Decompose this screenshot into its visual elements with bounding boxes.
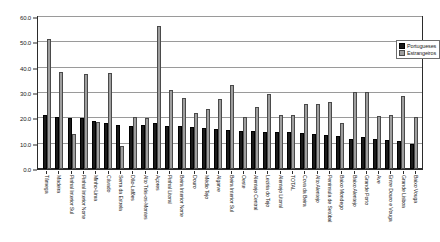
x-axis-label: Entre Douro e Vouga — [388, 175, 393, 222]
x-tick-mark — [378, 171, 379, 174]
bar-group — [298, 17, 310, 169]
chart-legend: PortuguesesEstrangeiros — [396, 40, 440, 59]
x-tick-mark — [280, 171, 281, 174]
legend-item: Portugueses — [399, 43, 436, 49]
x-tick-mark — [231, 171, 232, 174]
x-tick-mark — [218, 171, 219, 174]
bar-group — [65, 17, 77, 169]
x-axis-label: Baixo Mondego — [339, 175, 344, 210]
x-axis-label: Alto Trás-os-Montes — [142, 175, 147, 220]
x-tick-mark — [292, 171, 293, 174]
x-axis-label: Dão-Lafões — [130, 175, 135, 201]
bar-group — [53, 17, 65, 169]
x-axis-label: Beira Interior Norte — [179, 175, 184, 217]
x-axis-label-slot: Grande Lisboa — [397, 171, 409, 242]
y-tick-label: 0.0 — [23, 167, 31, 173]
x-axis-label: Baixo Vouga — [412, 175, 417, 203]
x-tick-mark — [255, 171, 256, 174]
bar-group — [175, 17, 187, 169]
x-axis-label: Oeste — [240, 175, 245, 188]
x-axis-label-slot: Oeste — [237, 171, 249, 242]
x-axis-label-slot: Alentejo Litoral — [274, 171, 286, 242]
x-axis-label: Açores — [154, 175, 159, 191]
x-tick-mark — [403, 171, 404, 174]
x-axis-label-slot: Baixo Mondego — [335, 171, 347, 242]
bar-group — [78, 17, 90, 169]
x-axis-label: Pinhal Interior Norte — [80, 175, 85, 219]
x-tick-mark — [83, 171, 84, 174]
legend-swatch-portugueses-icon — [399, 43, 405, 49]
bar-estrangeiros — [414, 117, 418, 169]
bar-estrangeiros — [72, 134, 76, 169]
x-tick-mark — [341, 171, 342, 174]
bar-group — [334, 17, 346, 169]
x-axis-label: Grande Porto — [363, 175, 368, 205]
bar-estrangeiros — [304, 104, 308, 169]
y-tick-label: 10.0 — [20, 142, 31, 148]
bar-group — [359, 17, 371, 169]
bar-group — [188, 17, 200, 169]
x-axis-label: Grande Lisboa — [400, 175, 405, 208]
x-axis-label-slot: TOTAL — [286, 171, 298, 242]
x-tick-mark — [58, 171, 59, 174]
x-axis-label-slot: Serra da Estrela — [114, 171, 126, 242]
x-axis-label: Cova da Beira — [302, 175, 307, 207]
bar-group — [212, 17, 224, 169]
legend-item: Estrangeiros — [399, 50, 436, 56]
x-tick-mark — [132, 171, 133, 174]
bar-group — [261, 17, 273, 169]
bar-estrangeiros — [340, 123, 344, 169]
bar-group — [224, 17, 236, 169]
bar-estrangeiros — [255, 107, 259, 169]
x-axis-label-slot: Algarve — [212, 171, 224, 242]
legend-label: Portugueses — [407, 43, 436, 49]
x-tick-mark — [71, 171, 72, 174]
bar-estrangeiros — [377, 116, 381, 169]
bar-group — [102, 17, 114, 169]
bar-group — [322, 17, 334, 169]
bar-group — [273, 17, 285, 169]
bar-estrangeiros — [218, 99, 222, 169]
bar-estrangeiros — [353, 92, 357, 169]
x-tick-mark — [329, 171, 330, 174]
x-axis-label-slot: Ave — [372, 171, 384, 242]
bar-group — [200, 17, 212, 169]
bar-estrangeiros — [84, 74, 88, 169]
x-axis-label: Beira Interior Sul — [228, 175, 233, 212]
x-axis-label-slot: Baixo Vouga — [409, 171, 421, 242]
bar-estrangeiros — [120, 146, 124, 169]
x-axis-label-slot: Pinhal Interior Norte — [77, 171, 89, 242]
x-axis-labels: TâmegaMadeiraPinhal Interior SulPinhal I… — [37, 171, 423, 242]
bar-group — [41, 17, 53, 169]
legend-swatch-estrangeiros-icon — [399, 50, 405, 56]
x-tick-mark — [181, 171, 182, 174]
bar-estrangeiros — [230, 85, 234, 169]
x-axis-label: Madeira — [56, 175, 61, 193]
x-tick-mark — [267, 171, 268, 174]
x-tick-mark — [390, 171, 391, 174]
bar-estrangeiros — [401, 96, 405, 169]
legend-label: Estrangeiros — [407, 50, 436, 56]
x-axis-label-slot: Península de Setúbal — [323, 171, 335, 242]
bar-group — [139, 17, 151, 169]
x-axis-label: TOTAL — [289, 175, 294, 191]
bar-estrangeiros — [157, 26, 161, 169]
bar-estrangeiros — [365, 92, 369, 169]
x-axis-label: Pinhal Litoral — [167, 175, 172, 204]
bar-estrangeiros — [243, 117, 247, 169]
x-axis-label: Ave — [376, 175, 381, 184]
x-axis-label: Lezíria do Tejo — [265, 175, 270, 207]
x-tick-mark — [206, 171, 207, 174]
bar-estrangeiros — [108, 73, 112, 169]
bar-estrangeiros — [145, 118, 149, 169]
bar-group — [237, 17, 249, 169]
x-tick-mark — [415, 171, 416, 174]
bar-group — [285, 17, 297, 169]
bar-estrangeiros — [291, 115, 295, 169]
bar-group — [90, 17, 102, 169]
x-tick-mark — [169, 171, 170, 174]
y-tick-label: 50.0 — [20, 40, 31, 46]
x-axis-label: Tâmega — [44, 175, 49, 193]
x-axis-label: Minho-Lima — [93, 175, 98, 201]
y-axis: 60.050.040.030.020.010.00.0 — [0, 16, 37, 170]
